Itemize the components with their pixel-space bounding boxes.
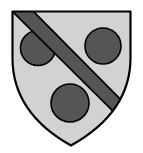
roundel-right bbox=[85, 28, 121, 64]
roundel-bottom bbox=[51, 84, 89, 122]
image-canvas bbox=[0, 0, 143, 153]
heraldic-shield-graphic bbox=[0, 0, 143, 153]
